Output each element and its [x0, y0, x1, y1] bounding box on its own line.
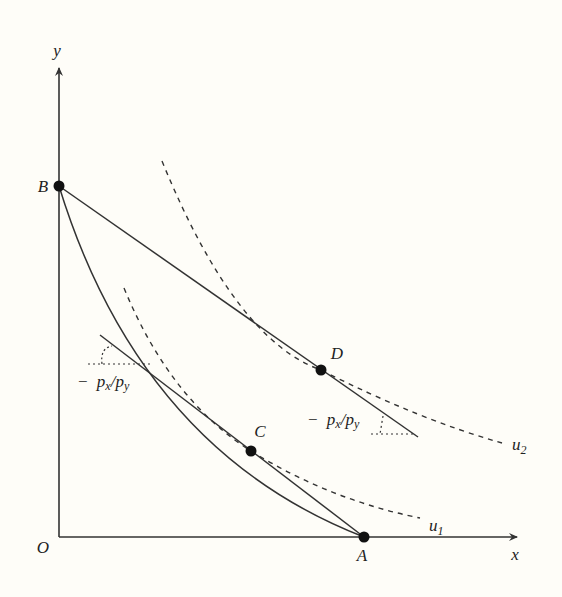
point-a: [359, 532, 370, 543]
y-axis-label: y: [51, 41, 61, 60]
point-b: [54, 181, 65, 192]
point-d-label: D: [330, 344, 344, 363]
slope-guide-right-vertical: [380, 416, 383, 434]
point-d: [316, 365, 327, 376]
curve-b-to-a: [59, 186, 364, 537]
slope-label-left: − px/py: [78, 372, 130, 393]
point-c-label: C: [254, 422, 266, 441]
x-axis-label: x: [510, 545, 519, 564]
u1-label: u1: [429, 516, 444, 538]
tangent-line-c: [100, 335, 364, 537]
budget-line-bd: [59, 186, 418, 437]
point-a-label: A: [356, 546, 368, 565]
indifference-curve-u1: [124, 288, 420, 518]
diagram-canvas: y x O B A C D u2 u1 − px/py − px/py: [0, 0, 562, 597]
point-b-label: B: [38, 177, 49, 196]
origin-label: O: [37, 538, 49, 557]
slope-label-right: − px/py: [308, 410, 360, 431]
slope-angle-arc-left: [102, 346, 112, 364]
point-c: [246, 446, 257, 457]
indifference-curve-u2: [162, 161, 502, 443]
u2-label: u2: [512, 435, 527, 457]
